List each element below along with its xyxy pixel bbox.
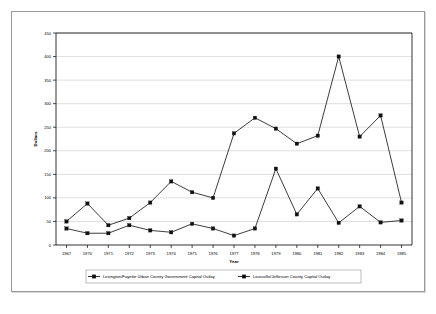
y-axis-label-150: 150 — [44, 172, 52, 177]
x-axis-label-1975: 1975 — [188, 251, 198, 256]
legend-item-1[interactable]: Lexington/Fayette Urban County Governmen… — [88, 274, 216, 279]
y-axis-label-350: 350 — [44, 78, 52, 83]
data-point-2-1974 — [169, 180, 172, 183]
x-axis-title: Year — [229, 259, 239, 264]
data-point-1-1976 — [211, 227, 214, 230]
y-axis-label-0: 0 — [49, 243, 52, 248]
data-point-1-1981 — [316, 187, 319, 190]
data-point-1-1973 — [149, 229, 152, 232]
y-axis-label-450: 450 — [44, 31, 52, 36]
y-axis-label-400: 400 — [44, 54, 52, 59]
x-axis-label-1974: 1974 — [167, 251, 177, 256]
y-axis-label-100: 100 — [44, 195, 52, 200]
data-point-2-1977 — [232, 132, 235, 135]
data-point-1-1980 — [295, 213, 298, 216]
x-axis-label-1967: 1967 — [62, 251, 72, 256]
data-point-2-1980 — [295, 142, 298, 145]
data-point-1-1970 — [86, 232, 89, 235]
data-point-1-1985 — [400, 219, 403, 222]
data-point-2-1983 — [358, 135, 361, 138]
data-point-1-1974 — [169, 231, 172, 234]
data-point-2-1976 — [211, 196, 214, 199]
x-axis-label-1976: 1976 — [209, 251, 219, 256]
y-axis-label-300: 300 — [44, 101, 52, 106]
x-axis-label-1973: 1973 — [146, 251, 156, 256]
data-point-2-1972 — [128, 216, 131, 219]
data-point-1-1971 — [107, 232, 110, 235]
x-axis-label-1981: 1981 — [313, 251, 323, 256]
line-chart: 0501001502002503003504004501967197019711… — [12, 12, 426, 293]
x-axis-label-1979: 1979 — [271, 251, 281, 256]
x-axis-label-1985: 1985 — [397, 251, 407, 256]
x-axis-label-1977: 1977 — [229, 251, 239, 256]
chart-frame: 0501001502002503003504004501967197019711… — [11, 11, 425, 292]
y-axis-label-50: 50 — [46, 219, 51, 224]
data-point-1-1983 — [358, 205, 361, 208]
y-axis-title: Dollars — [33, 131, 38, 146]
data-point-1-1984 — [379, 221, 382, 224]
chart-plot-container: 0501001502002503003504004501967197019711… — [12, 12, 424, 291]
data-point-2-1985 — [400, 201, 403, 204]
data-point-1-1977 — [232, 234, 235, 237]
x-axis-label-1972: 1972 — [125, 251, 135, 256]
x-axis-label-1978: 1978 — [250, 251, 260, 256]
data-point-1-1975 — [190, 222, 193, 225]
data-point-2-1978 — [253, 116, 256, 119]
data-point-2-1982 — [337, 55, 340, 58]
legend-label-1: Lexington/Fayette Urban County Governmen… — [103, 274, 216, 279]
x-axis-label-1980: 1980 — [292, 251, 302, 256]
x-axis-label-1970: 1970 — [83, 251, 93, 256]
data-point-1-1978 — [253, 227, 256, 230]
y-axis-label-200: 200 — [44, 148, 52, 153]
data-point-1-1982 — [337, 221, 340, 224]
data-point-2-1984 — [379, 114, 382, 117]
plot-background — [56, 33, 412, 245]
data-point-2-1979 — [274, 127, 277, 130]
legend-label-2: Louisville/Jefferson County Capital Outl… — [253, 274, 331, 279]
data-point-1-1967 — [65, 227, 68, 230]
data-point-2-1967 — [65, 220, 68, 223]
x-axis-label-1984: 1984 — [376, 251, 386, 256]
data-point-1-1979 — [274, 167, 277, 170]
legend-marker-1 — [92, 275, 96, 279]
data-point-2-1971 — [107, 224, 110, 227]
y-axis-label-250: 250 — [44, 125, 52, 130]
legend-marker-2 — [242, 275, 246, 279]
data-point-2-1970 — [86, 202, 89, 205]
data-point-1-1972 — [128, 224, 131, 227]
x-axis-label-1983: 1983 — [355, 251, 365, 256]
x-axis-label-1982: 1982 — [334, 251, 344, 256]
data-point-2-1981 — [316, 134, 319, 137]
x-axis-label-1971: 1971 — [104, 251, 114, 256]
data-point-2-1975 — [190, 191, 193, 194]
data-point-2-1973 — [149, 201, 152, 204]
